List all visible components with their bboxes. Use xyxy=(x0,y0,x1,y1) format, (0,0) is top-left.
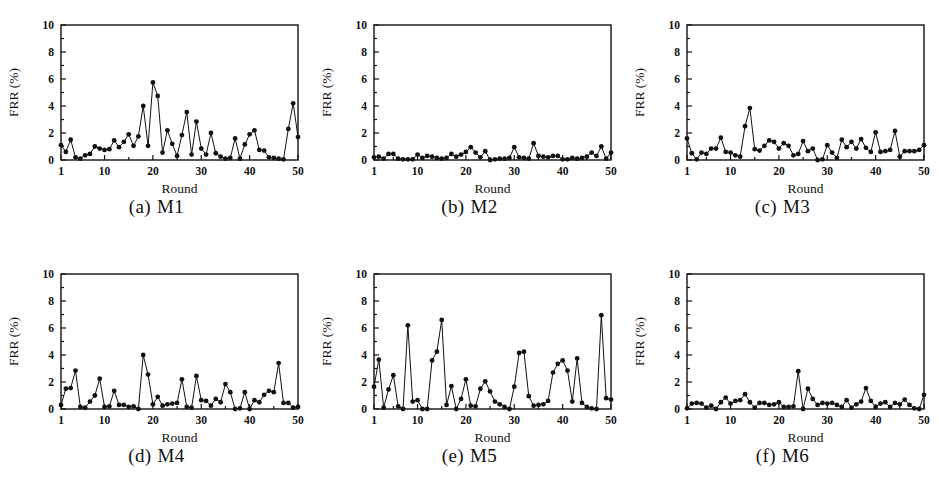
data-point xyxy=(609,150,614,155)
data-point xyxy=(493,157,498,162)
data-point xyxy=(121,403,126,408)
y-tick-label: 8 xyxy=(48,295,54,307)
y-axis-title: FRR (%) xyxy=(6,317,21,366)
data-point xyxy=(209,403,214,408)
data-point xyxy=(459,396,464,401)
data-point xyxy=(146,372,151,377)
data-point xyxy=(718,135,723,140)
panel-caption-index: (e) xyxy=(442,445,464,466)
data-point xyxy=(796,369,801,374)
data-point xyxy=(376,357,381,362)
panel-caption-name: M6 xyxy=(782,445,809,466)
data-point xyxy=(536,154,541,159)
data-point xyxy=(141,353,146,358)
y-tick-label: 8 xyxy=(361,46,367,58)
data-point xyxy=(551,370,556,375)
data-point xyxy=(512,145,517,150)
data-point xyxy=(420,156,425,161)
data-point xyxy=(405,323,410,328)
x-tick-label: 50 xyxy=(292,414,304,426)
data-point xyxy=(873,405,878,410)
data-point xyxy=(194,374,199,379)
data-point xyxy=(806,149,811,154)
data-point xyxy=(733,399,738,404)
data-point xyxy=(184,405,189,410)
data-point xyxy=(267,388,272,393)
data-point xyxy=(410,399,415,404)
data-point xyxy=(747,106,752,111)
data-point xyxy=(386,387,391,392)
series-line xyxy=(374,315,611,409)
data-point xyxy=(170,401,175,406)
series-line xyxy=(61,355,298,409)
data-point xyxy=(839,137,844,142)
data-point xyxy=(281,157,286,162)
x-tick-label: 20 xyxy=(147,165,159,177)
y-axis-title: FRR (%) xyxy=(319,317,334,366)
panel-m4: 024681011020304050RoundFRR (%) (d)M4 xyxy=(0,249,313,498)
data-point xyxy=(565,157,570,162)
series-line xyxy=(687,108,924,160)
data-point xyxy=(781,141,786,146)
data-point xyxy=(488,158,493,163)
y-tick-label: 10 xyxy=(43,268,55,280)
data-point xyxy=(709,403,714,408)
y-tick-label: 0 xyxy=(674,403,680,415)
data-point xyxy=(699,401,704,406)
data-point xyxy=(126,132,131,137)
y-tick-label: 10 xyxy=(356,268,368,280)
data-point xyxy=(728,150,733,155)
data-point xyxy=(160,150,165,155)
panel-m1: 024681011020304050RoundFRR (%) (a)M1 xyxy=(0,0,313,249)
data-point xyxy=(815,158,820,163)
y-tick-label: 10 xyxy=(669,19,681,31)
y-tick-label: 6 xyxy=(48,73,54,85)
x-tick-label: 50 xyxy=(292,165,304,177)
data-point xyxy=(63,150,68,155)
data-point xyxy=(291,405,296,410)
data-point xyxy=(213,396,218,401)
data-point xyxy=(107,404,112,409)
panel-caption-index: (a) xyxy=(129,196,151,217)
panel-caption-name: M3 xyxy=(783,196,810,217)
panel-caption-name: M5 xyxy=(470,445,497,466)
data-point xyxy=(685,406,690,411)
data-point xyxy=(454,407,459,412)
data-point xyxy=(83,405,88,410)
data-point xyxy=(806,386,811,391)
data-point xyxy=(372,384,377,389)
x-tick-label: 20 xyxy=(773,414,785,426)
data-point xyxy=(893,129,898,134)
data-point xyxy=(796,152,801,157)
data-point xyxy=(488,389,493,394)
data-point xyxy=(714,146,719,151)
data-point xyxy=(709,146,714,151)
y-tick-label: 4 xyxy=(48,100,54,112)
plot-area-m5: 024681011020304050RoundFRR (%) xyxy=(313,257,626,447)
panel-m3: 024681011020304050RoundFRR (%) (c)M3 xyxy=(626,0,939,249)
data-point xyxy=(473,404,478,409)
figure-panel-grid: 024681011020304050RoundFRR (%) (a)M1 024… xyxy=(0,0,939,498)
data-point xyxy=(381,156,386,161)
data-point xyxy=(454,154,459,159)
data-point xyxy=(238,156,243,161)
panel-caption-m2: (b)M2 xyxy=(313,196,626,218)
data-point xyxy=(430,154,435,159)
data-point xyxy=(291,101,296,106)
data-point xyxy=(155,93,160,98)
data-point xyxy=(694,401,699,406)
y-axis-title: FRR (%) xyxy=(632,68,647,117)
y-tick-label: 6 xyxy=(361,73,367,85)
data-point xyxy=(88,399,93,404)
data-point xyxy=(468,145,473,150)
data-point xyxy=(228,390,233,395)
y-axis-title: FRR (%) xyxy=(6,68,21,117)
series-markers xyxy=(685,369,927,412)
data-point xyxy=(286,401,291,406)
y-tick-label: 4 xyxy=(361,100,367,112)
data-point xyxy=(738,154,743,159)
data-point xyxy=(415,398,420,403)
x-tick-label: 1 xyxy=(371,414,377,426)
data-point xyxy=(223,382,228,387)
x-tick-label: 1 xyxy=(684,165,690,177)
